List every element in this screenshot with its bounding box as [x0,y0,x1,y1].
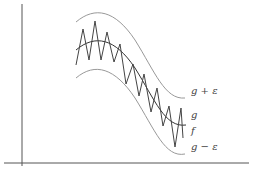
upper-band-curve [76,13,185,98]
label-lower: g − ε [191,141,218,152]
label-f: f [190,125,197,136]
f-zigzag [76,21,183,147]
label-g: g [191,109,197,120]
label-upper: g + ε [191,85,218,96]
lower-band-curve [76,69,185,154]
epsilon-band-diagram: g + ε g f g − ε [0,0,253,175]
